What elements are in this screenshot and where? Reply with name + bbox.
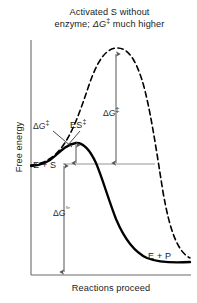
double-dagger-icon: ‡: [115, 106, 119, 113]
dg-activation-uncatalyzed-label: ΔG‡: [103, 108, 119, 118]
dg-standard-label: ΔG°′: [53, 208, 70, 218]
products-label: E + P: [148, 251, 171, 261]
transition-state-dagger-icon: ‡: [82, 118, 86, 125]
degree-prime-icon: °′: [65, 206, 69, 213]
free-energy-diagram-figure: Activated S without enzyme; ΔG‡ much hig…: [0, 0, 197, 303]
y-axis-label: Free energy: [14, 87, 24, 207]
x-axis-label: Reactions proceed: [31, 283, 191, 293]
transition-state-label: ES‡: [70, 120, 87, 130]
double-dagger-icon: ‡: [45, 119, 49, 126]
reactants-label: E + S: [33, 160, 56, 170]
uncatalyzed-reaction-curve: [31, 48, 190, 258]
dg-catalyzed-leader-line: [53, 131, 72, 147]
transition-state-text: ES: [70, 120, 82, 130]
dg-activation-catalyzed-label: ΔG‡: [33, 121, 49, 131]
